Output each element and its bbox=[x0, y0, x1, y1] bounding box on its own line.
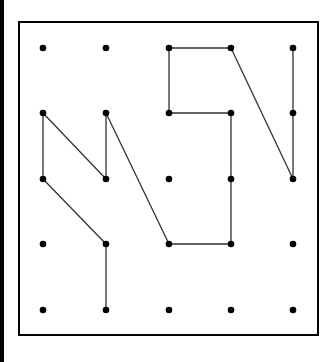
grid-dot-r1-c4 bbox=[290, 110, 297, 117]
dot-grid-diagram bbox=[0, 0, 333, 362]
grid-dot-r2-c2 bbox=[166, 176, 173, 183]
grid-dot-r0-c1 bbox=[103, 45, 110, 52]
grid-dot-r3-c2 bbox=[166, 241, 173, 248]
grid-dot-r2-c0 bbox=[40, 176, 47, 183]
grid-dot-r4-c1 bbox=[103, 307, 110, 314]
grid-dot-r4-c0 bbox=[40, 307, 47, 314]
grid-dot-r0-c4 bbox=[290, 45, 297, 52]
grid-dot-r2-c4 bbox=[290, 176, 297, 183]
grid-dot-r0-c0 bbox=[40, 45, 47, 52]
grid-dot-r0-c3 bbox=[228, 45, 235, 52]
grid-dot-r3-c3 bbox=[228, 241, 235, 248]
grid-dot-r4-c3 bbox=[228, 307, 235, 314]
grid-dot-r3-c1 bbox=[103, 241, 110, 248]
grid-dot-r1-c1 bbox=[103, 110, 110, 117]
grid-dot-r2-c1 bbox=[103, 176, 110, 183]
grid-dot-r0-c2 bbox=[166, 45, 173, 52]
grid-dot-r4-c2 bbox=[166, 307, 173, 314]
grid-dot-r2-c3 bbox=[228, 176, 235, 183]
grid-dot-r1-c3 bbox=[228, 110, 235, 117]
grid-dot-r3-c4 bbox=[290, 241, 297, 248]
grid-dot-r1-c0 bbox=[40, 110, 47, 117]
grid-dot-r1-c2 bbox=[166, 110, 173, 117]
grid-dot-r3-c0 bbox=[40, 241, 47, 248]
grid-dots bbox=[40, 45, 297, 314]
grid-dot-r4-c4 bbox=[290, 307, 297, 314]
